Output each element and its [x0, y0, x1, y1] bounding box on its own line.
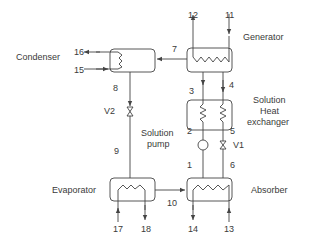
evaporator-box — [110, 178, 155, 201]
state-point-11: 11 — [225, 10, 234, 20]
condenser-label: Condenser — [16, 52, 60, 62]
state-point-12: 12 — [188, 10, 198, 20]
valve-v1-icon — [220, 141, 226, 149]
state-point-14: 14 — [188, 224, 198, 234]
valve-v2-label: V2 — [104, 106, 115, 116]
state-point-16: 16 — [74, 47, 84, 57]
state-point-10: 10 — [167, 198, 177, 208]
state-point-8: 8 — [113, 83, 118, 93]
generator-coil-icon — [193, 36, 229, 62]
state-point-17: 17 — [113, 224, 123, 234]
state-point-9: 9 — [114, 146, 119, 156]
valve-v1-label: V1 — [233, 140, 244, 150]
pump-label-line1: Solution — [141, 128, 174, 138]
state-point-4: 4 — [229, 80, 234, 90]
state-point-18: 18 — [141, 224, 151, 234]
shx-label-line2: Heat — [260, 106, 279, 116]
absorber-label: Absorber — [251, 185, 288, 195]
generator-label: Generator — [243, 32, 284, 42]
state-point-2: 2 — [187, 126, 192, 136]
generator-box — [187, 48, 232, 72]
evaporator-coil-icon — [118, 185, 145, 210]
shx-label-line1: Solution — [253, 95, 286, 105]
state-point-13: 13 — [224, 224, 234, 234]
state-point-7: 7 — [172, 44, 177, 54]
evaporator-label: Evaporator — [52, 185, 96, 195]
state-point-1: 1 — [187, 160, 192, 170]
pump-label-line2: pump — [147, 139, 170, 149]
absorber-coil-icon — [193, 185, 229, 210]
state-point-6: 6 — [230, 160, 235, 170]
state-point-5: 5 — [230, 126, 235, 136]
pump-icon — [198, 140, 208, 150]
state-point-15: 15 — [74, 65, 84, 75]
shx-label-line3: exchanger — [247, 117, 289, 127]
valve-v2-icon — [127, 107, 133, 116]
state-point-3: 3 — [189, 86, 194, 96]
condenser-coil-icon — [96, 52, 122, 69]
shx-box — [187, 100, 232, 130]
